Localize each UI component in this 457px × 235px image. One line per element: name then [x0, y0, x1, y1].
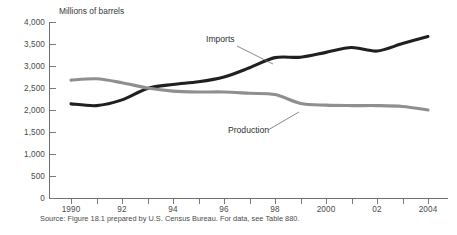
- x-tick-group: 1990929496982000022004: [62, 199, 438, 215]
- y-tick-label: 2,000: [24, 106, 45, 115]
- x-tick-label: 98: [270, 205, 280, 214]
- chart-figure: 05001,0001,5002,0002,5003,0003,5004,000 …: [0, 0, 457, 235]
- leader-line-imports: [237, 46, 273, 64]
- y-tick-label: 1,000: [24, 150, 45, 159]
- x-tick-label: 2004: [419, 205, 438, 214]
- x-tick-label: 1990: [62, 205, 81, 214]
- series-label-imports: Imports: [206, 34, 235, 44]
- x-tick-label: 02: [372, 205, 382, 214]
- source-note: Source: Figure 18.1 prepared by U.S. Cen…: [40, 214, 300, 223]
- series-line-production: [71, 79, 428, 110]
- y-tick-label: 2,500: [24, 84, 45, 93]
- x-tick-label: 2000: [317, 205, 336, 214]
- x-tick-label: 94: [168, 205, 178, 214]
- y-tick-group: 05001,0001,5002,0002,5003,0003,5004,000: [24, 18, 56, 203]
- line-chart: 05001,0001,5002,0002,5003,0003,5004,000 …: [0, 0, 457, 235]
- y-tick-label: 3,000: [24, 62, 45, 71]
- leader-line-production: [268, 112, 299, 130]
- y-tick-label: 500: [31, 172, 45, 181]
- series-group: [71, 37, 428, 110]
- y-axis-title: Millions of barrels: [59, 6, 124, 16]
- y-tick-label: 0: [40, 194, 45, 203]
- annotation-group: ImportsProduction: [206, 34, 299, 135]
- y-tick-label: 4,000: [24, 18, 45, 27]
- y-tick-label: 1,500: [24, 128, 45, 137]
- x-tick-label: 96: [219, 205, 229, 214]
- x-tick-label: 92: [117, 205, 127, 214]
- series-label-production: Production: [228, 125, 269, 135]
- series-line-imports: [71, 37, 428, 106]
- y-tick-label: 3,500: [24, 40, 45, 49]
